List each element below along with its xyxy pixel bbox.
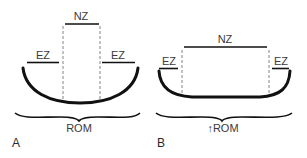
- panel-b-ez-right-label: EZ: [274, 55, 288, 67]
- panel-a-ez-right-label: EZ: [111, 49, 125, 61]
- panel-a-rom-brace: [15, 113, 140, 121]
- panel-b-rom-brace: [156, 113, 292, 121]
- panel-b-rom-label: ↑ROM: [207, 122, 238, 134]
- panel-a-curve: [23, 68, 138, 103]
- panel-a-rom-label: ROM: [66, 122, 92, 134]
- panel-b-nz-label: NZ: [218, 33, 233, 45]
- panel-a-ez-left-label: EZ: [36, 49, 50, 61]
- panel-a: NZ EZ EZ ROM A: [12, 10, 140, 150]
- panel-a-nz-label: NZ: [74, 10, 89, 22]
- load-displacement-diagram: NZ EZ EZ ROM A NZ EZ EZ ↑ROM: [0, 0, 307, 158]
- panel-b-letter: B: [157, 136, 165, 150]
- panel-a-letter: A: [12, 136, 20, 150]
- panel-b-ez-left-label: EZ: [162, 55, 176, 67]
- panel-b-curve: [159, 71, 290, 97]
- panel-b: NZ EZ EZ ↑ROM B: [156, 33, 292, 150]
